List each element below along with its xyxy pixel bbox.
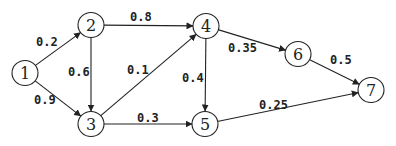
node-label: 3 [86,115,96,134]
node-label: 6 [293,45,303,64]
edge-weight-label: 0.35 [228,41,257,55]
node-label: 7 [366,81,376,100]
edge-weight-label: 0.6 [68,65,90,79]
edge-2-4 [103,25,193,26]
edge-4-5 [205,38,206,111]
edge-5-7 [217,93,359,122]
edge-weight-label: 0.9 [34,93,56,107]
edge-weight-label: 0.2 [36,35,58,49]
node-2: 2 [78,13,104,38]
node-4: 4 [193,14,219,39]
node-label: 5 [200,115,210,134]
node-7: 7 [358,78,384,103]
graph-canvas: 1234567 0.20.90.80.60.10.30.40.350.50.25 [0,0,396,146]
node-5: 5 [192,112,218,137]
node-3: 3 [78,112,104,137]
node-label: 4 [201,17,211,36]
edge-weight-label: 0.5 [330,53,352,67]
edge-weight-label: 0.3 [137,111,159,125]
node-6: 6 [285,42,311,67]
node-label: 2 [86,16,96,35]
node-label: 1 [20,64,30,83]
node-1: 1 [12,61,38,86]
edge-weight-label: 0.4 [182,71,204,85]
edge-weight-label: 0.1 [127,63,149,77]
edge-weight-label: 0.8 [130,10,152,24]
edge-weight-label: 0.25 [259,98,288,112]
